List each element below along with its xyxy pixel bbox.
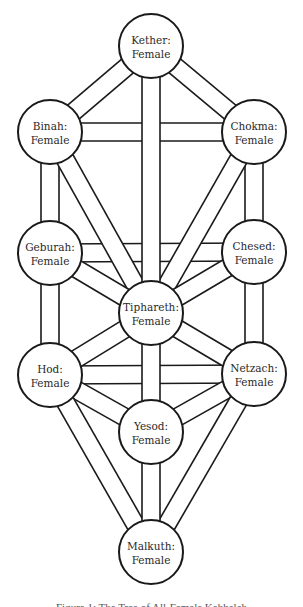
- sephira-value: Female: [235, 134, 274, 146]
- sephira-value: Female: [235, 254, 274, 266]
- sephira-name: Chesed:: [233, 240, 276, 252]
- sephira-value: Female: [132, 315, 171, 327]
- sephira-name: Binah:: [33, 120, 67, 132]
- sephira-circle: [119, 14, 183, 78]
- sephira-geburah: Geburah:Female: [18, 221, 82, 285]
- sephira-circle: [222, 342, 286, 406]
- sephira-circle: [18, 343, 82, 407]
- sephira-value: Female: [132, 554, 171, 566]
- sephira-circle: [119, 520, 183, 584]
- sephira-name: Hod:: [37, 363, 63, 375]
- sephira-circle: [119, 281, 183, 345]
- path-channel-fill: [142, 46, 160, 313]
- sephira-value: Female: [31, 255, 70, 267]
- sephira-name: Netzach:: [230, 362, 278, 374]
- sephira-name: Yesod:: [133, 420, 168, 432]
- sephira-name: Chokma:: [230, 120, 277, 132]
- sephira-circle: [18, 221, 82, 285]
- figure-caption: Figure 1: The Tree of All-Female Kabbala…: [0, 600, 303, 607]
- sephira-netzach: Netzach:Female: [222, 342, 286, 406]
- sephira-circle: [119, 400, 183, 464]
- path-kether-tiphareth: [142, 46, 160, 313]
- sephira-value: Female: [132, 434, 171, 446]
- sephira-value: Female: [132, 48, 171, 60]
- sephira-circle: [222, 220, 286, 284]
- sephira-value: Female: [31, 377, 70, 389]
- sephira-yesod: Yesod:Female: [119, 400, 183, 464]
- sephira-circle: [222, 100, 286, 164]
- sephira-hod: Hod:Female: [18, 343, 82, 407]
- sephira-tiphareth: Tiphareth:Female: [119, 281, 183, 345]
- sephira-malkuth: Malkuth:Female: [119, 520, 183, 584]
- sephira-chesed: Chesed:Female: [222, 220, 286, 284]
- sephira-value: Female: [235, 376, 274, 388]
- sephira-kether: Kether:Female: [119, 14, 183, 78]
- sephira-binah: Binah:Female: [18, 100, 82, 164]
- sephira-chokma: Chokma:Female: [222, 100, 286, 164]
- sephira-value: Female: [31, 134, 70, 146]
- sephira-name: Geburah:: [25, 241, 75, 253]
- sephira-circle: [18, 100, 82, 164]
- sephira-name: Tiphareth:: [123, 301, 179, 313]
- sephira-name: Malkuth:: [127, 540, 175, 552]
- tree-of-life-diagram: Kether:FemaleBinah:FemaleChokma:FemaleGe…: [0, 0, 303, 607]
- sephira-name: Kether:: [131, 34, 171, 46]
